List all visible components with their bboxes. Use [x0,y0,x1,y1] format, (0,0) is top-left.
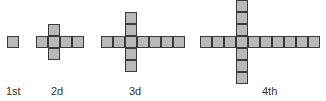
square-cell [173,36,185,48]
square-cell [200,36,212,48]
square-cell [224,36,236,48]
square-cell [60,36,72,48]
square-cell [212,36,224,48]
square-cell [149,36,161,48]
square-cell [125,12,137,24]
square-cell [236,12,248,24]
square-cell [296,36,308,48]
square-cell [72,36,84,48]
square-cell [284,36,296,48]
label-3d: 3d [129,84,141,98]
square-cell [248,36,260,48]
square-cell [7,36,19,48]
square-cell [48,36,60,48]
square-cell [125,24,137,36]
square-cell [113,36,125,48]
square-cell [161,36,173,48]
square-cell [125,36,137,48]
square-cell [125,60,137,72]
label-1st: 1st [6,84,21,98]
cross-pattern-diagram: 1st 2d 3d 4th [0,0,326,101]
square-cell [101,36,113,48]
square-cell [236,0,248,12]
square-cell [125,48,137,60]
square-cell [137,36,149,48]
label-2d: 2d [51,84,63,98]
square-cell [48,48,60,60]
label-4th: 4th [262,84,277,98]
square-cell [236,48,248,60]
square-cell [308,36,320,48]
square-cell [236,72,248,84]
square-cell [272,36,284,48]
square-cell [36,36,48,48]
square-cell [236,60,248,72]
square-cell [48,24,60,36]
square-cell [236,24,248,36]
square-cell [236,36,248,48]
square-cell [260,36,272,48]
